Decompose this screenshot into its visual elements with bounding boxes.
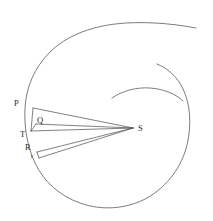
segment-P-T	[31, 108, 33, 131]
spiral-figure-svg	[0, 0, 213, 221]
point-label-P: P	[14, 99, 19, 108]
spiral-figure-container: P Q T R r S	[0, 0, 213, 221]
outer-spiral-arc	[25, 23, 196, 208]
segment-S-T	[31, 128, 133, 131]
inner-spiral-arc	[112, 88, 183, 101]
point-label-S: S	[138, 124, 143, 133]
segment-R-r	[37, 152, 39, 158]
point-label-r: r	[31, 153, 33, 160]
segment-S-Q	[36, 124, 133, 128]
segment-S-R	[37, 128, 133, 152]
point-label-T: T	[20, 130, 25, 139]
segment-S-P	[33, 108, 133, 128]
point-label-Q: Q	[37, 116, 43, 125]
segment-S-r	[39, 128, 133, 158]
point-label-R: R	[25, 143, 31, 152]
